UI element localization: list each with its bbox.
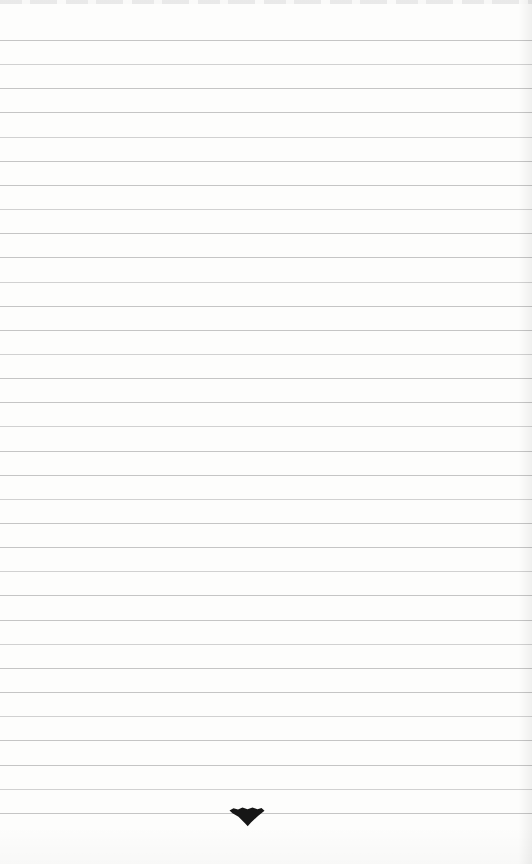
ruled-line — [0, 209, 532, 210]
ruled-line — [0, 40, 532, 41]
ruled-line — [0, 354, 532, 355]
ruled-line — [0, 523, 532, 524]
ruled-line — [0, 451, 532, 452]
ruled-line — [0, 692, 532, 693]
ruled-line — [0, 475, 532, 476]
ruled-line — [0, 644, 532, 645]
ruled-line — [0, 64, 532, 65]
ruled-line — [0, 571, 532, 572]
page-right-edge-shadow — [518, 0, 532, 864]
ruled-line — [0, 88, 532, 89]
ruled-line — [0, 402, 532, 403]
ruled-line — [0, 668, 532, 669]
ruled-line — [0, 813, 532, 814]
ruled-line — [0, 547, 532, 548]
scanned-notebook-page — [0, 0, 532, 864]
ruled-line — [0, 137, 532, 138]
ruled-line — [0, 330, 532, 331]
ruled-line — [0, 161, 532, 162]
ruled-line — [0, 765, 532, 766]
ruled-line — [0, 789, 532, 790]
ruled-line — [0, 499, 532, 500]
down-triangle-tailpiece-icon — [229, 806, 265, 827]
ruled-line — [0, 378, 532, 379]
ruled-line — [0, 620, 532, 621]
ruled-line — [0, 716, 532, 717]
scan-bottom-texture — [0, 826, 532, 864]
ruled-line — [0, 306, 532, 307]
scan-top-edge-artifact — [0, 0, 532, 4]
ruled-line — [0, 233, 532, 234]
ruled-line — [0, 257, 532, 258]
ruled-line — [0, 185, 532, 186]
ruled-line — [0, 112, 532, 113]
ruled-line — [0, 740, 532, 741]
ruled-line — [0, 282, 532, 283]
ruled-line — [0, 426, 532, 427]
ruled-line — [0, 595, 532, 596]
